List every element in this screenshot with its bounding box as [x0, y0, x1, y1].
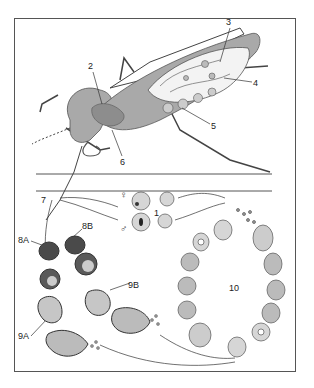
label-1: 1 — [154, 209, 159, 218]
label-5: 5 — [211, 122, 216, 131]
label-3: 3 — [226, 18, 231, 27]
label-8a: 8A — [18, 236, 29, 245]
liver-stages — [38, 236, 160, 356]
label-7: 7 — [41, 196, 46, 205]
label-2: 2 — [88, 62, 93, 71]
gametocytes — [132, 192, 174, 231]
female-symbol: ♀ — [120, 190, 128, 200]
life-cycle-diagram — [0, 0, 314, 388]
label-8b: 8B — [82, 222, 93, 231]
label-4: 4 — [253, 79, 258, 88]
label-6: 6 — [120, 158, 125, 167]
label-9a: 9A — [18, 332, 29, 341]
label-9b: 9B — [128, 281, 139, 290]
male-symbol: ♂ — [120, 224, 128, 234]
label-10: 10 — [229, 284, 239, 293]
